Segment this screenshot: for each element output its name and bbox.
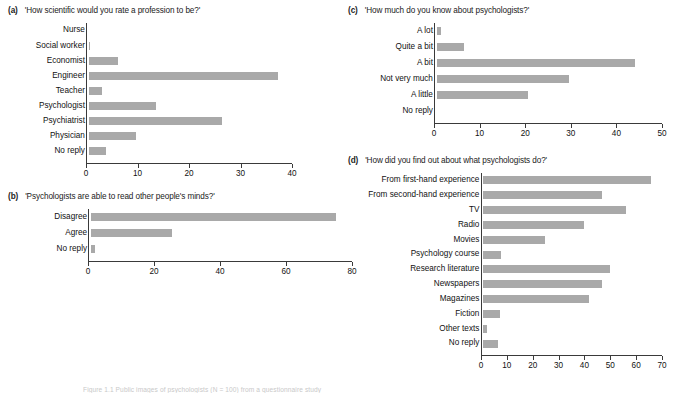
bar-track	[437, 39, 668, 55]
bar-row: Quite a bit	[348, 39, 668, 55]
bar-track	[89, 83, 298, 98]
x-tick-label: 0	[86, 267, 91, 276]
bar-row: Psychology course	[348, 247, 668, 262]
bar	[483, 206, 625, 214]
bar-track	[91, 241, 358, 257]
bar-track	[483, 321, 668, 336]
bar-row: No reply	[348, 103, 668, 119]
category-label: Psychiatrist	[8, 117, 89, 125]
x-tick	[86, 164, 87, 168]
bar-track	[89, 23, 298, 38]
chart-tag-b: (b)	[8, 192, 18, 201]
bar-row: Radio	[348, 217, 668, 232]
x-tick-label: 0	[432, 129, 437, 138]
x-tick	[571, 124, 572, 128]
category-label: TV	[348, 206, 483, 214]
x-tick-label: 10	[475, 129, 484, 138]
bar-track	[89, 144, 298, 159]
bar-row: Nurse	[8, 23, 298, 38]
bar	[437, 59, 635, 67]
category-label: Fiction	[348, 310, 483, 318]
category-label: Magazines	[348, 295, 483, 303]
chart-title-text-b: 'Psychologists are able to read other pe…	[25, 192, 215, 201]
bar-track	[89, 53, 298, 68]
bar	[89, 72, 279, 80]
category-label: Quite a bit	[348, 43, 437, 51]
bar	[483, 310, 500, 318]
bar	[483, 176, 651, 184]
bar	[437, 75, 569, 83]
bar	[437, 91, 528, 99]
bar	[89, 102, 156, 110]
x-tick	[507, 356, 508, 360]
bar-row: Research literature	[348, 262, 668, 277]
bar-track	[89, 68, 298, 83]
x-tick-label: 10	[502, 361, 511, 370]
x-tick	[525, 124, 526, 128]
bar-row: No reply	[8, 144, 298, 159]
bar	[483, 295, 589, 303]
x-tick-label: 20	[184, 169, 193, 178]
bar-rows: A lotQuite a bitA bitNot very muchA litt…	[348, 23, 668, 119]
bar	[91, 213, 336, 221]
bar-row: TV	[348, 203, 668, 218]
x-tick	[584, 356, 585, 360]
bar-track	[483, 203, 668, 218]
category-label: Engineer	[8, 72, 89, 80]
x-tick	[662, 356, 663, 360]
bar-track	[91, 225, 358, 241]
bar-row: Teacher	[8, 83, 298, 98]
x-tick	[610, 356, 611, 360]
bar-track	[483, 336, 668, 351]
x-tick	[662, 124, 663, 128]
category-label: No reply	[348, 107, 437, 115]
category-label: Other texts	[348, 325, 483, 333]
bar-track	[483, 188, 668, 203]
chart-title-d: (d)'How did you find out about what psyc…	[348, 156, 547, 166]
x-tick	[292, 164, 293, 168]
x-tick-label: 20	[149, 267, 158, 276]
x-tick	[241, 164, 242, 168]
x-tick-label: 40	[215, 267, 224, 276]
x-tick-label: 70	[657, 361, 666, 370]
bar	[483, 251, 501, 259]
bar	[89, 57, 118, 65]
bar-row: Newspapers	[348, 277, 668, 292]
x-tick-label: 60	[281, 267, 290, 276]
category-label: No reply	[8, 147, 89, 155]
category-label: Newspapers	[348, 280, 483, 288]
bar-track	[483, 277, 668, 292]
bar-track	[89, 38, 298, 53]
bar-row: No reply	[8, 241, 358, 257]
chart-tag-d: (d)	[348, 156, 358, 165]
bar	[483, 325, 487, 333]
category-label: Teacher	[8, 87, 89, 95]
category-label: Social worker	[8, 42, 89, 50]
bar-row: Fiction	[348, 306, 668, 321]
bar-track	[437, 71, 668, 87]
category-label: No reply	[8, 245, 91, 253]
bar	[437, 27, 442, 35]
bar-track	[483, 217, 668, 232]
x-tick-label: 50	[606, 361, 615, 370]
category-label: Agree	[8, 229, 91, 237]
x-tick	[138, 164, 139, 168]
x-tick-label: 30	[554, 361, 563, 370]
bar-track	[483, 262, 668, 277]
x-tick	[88, 262, 89, 266]
category-label: Research literature	[348, 265, 483, 273]
category-label: Physician	[8, 132, 89, 140]
chart-tag-a: (a)	[8, 6, 18, 15]
chart-plot-c: A lotQuite a bitA bitNot very muchA litt…	[348, 23, 668, 141]
chart-title-b: (b)'Psychologists are able to read other…	[8, 192, 215, 202]
bar	[89, 87, 102, 95]
x-tick-label: 20	[528, 361, 537, 370]
bar-row: A little	[348, 87, 668, 103]
chart-title-c: (c)'How much do you know about psycholog…	[348, 6, 529, 16]
bar-row: Social worker	[8, 38, 298, 53]
bar-row: From second-hand experience	[348, 188, 668, 203]
bar-rows: NurseSocial workerEconomistEngineerTeach…	[8, 23, 298, 159]
chart-panel-b: (b)'Psychologists are able to read other…	[8, 192, 215, 202]
x-tick	[286, 262, 287, 266]
bar-row: Economist	[8, 53, 298, 68]
